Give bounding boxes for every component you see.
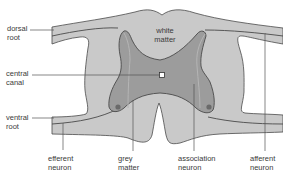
label-dorsal-root: dorsal root bbox=[7, 25, 27, 42]
label-afferent-neuron-line2: neuron bbox=[250, 164, 275, 173]
label-grey-matter: grey matter bbox=[118, 155, 139, 172]
left-neuron-cell-body-icon bbox=[115, 104, 120, 109]
label-dorsal-root-line2: root bbox=[7, 34, 27, 43]
label-association-neuron: association neuron bbox=[178, 155, 216, 172]
label-association-neuron-line2: neuron bbox=[178, 164, 216, 173]
right-neuron-cell-body-icon bbox=[206, 104, 211, 109]
label-afferent-neuron: afferent neuron bbox=[250, 155, 275, 172]
label-central-canal: central canal bbox=[6, 70, 29, 87]
central-canal-icon bbox=[160, 73, 165, 78]
label-white-matter: white matter bbox=[150, 27, 180, 44]
label-central-canal-line2: canal bbox=[6, 79, 29, 88]
label-efferent-neuron: efferent neuron bbox=[48, 155, 73, 172]
label-ventral-root-line2: root bbox=[6, 123, 29, 132]
spinal-cord-diagram bbox=[0, 0, 283, 179]
label-grey-matter-line2: matter bbox=[118, 164, 139, 173]
label-white-matter-line2: matter bbox=[150, 36, 180, 45]
label-ventral-root: ventral root bbox=[6, 114, 29, 131]
label-efferent-neuron-line2: neuron bbox=[48, 164, 73, 173]
